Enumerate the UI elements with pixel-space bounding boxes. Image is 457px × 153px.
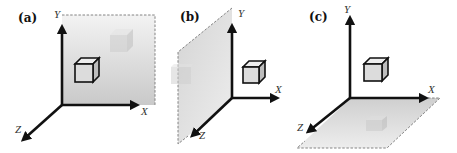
cube-icon <box>364 58 388 81</box>
panel-c: (c) Y X Z <box>297 3 440 148</box>
z-axis-label-a: Z <box>15 123 22 135</box>
x-axis-label-b: X <box>274 83 283 95</box>
z-axis-a <box>24 105 62 139</box>
z-axis-label-b: Z <box>199 129 206 141</box>
x-axis-label-c: X <box>427 83 436 95</box>
z-axis-label-c: Z <box>297 121 304 133</box>
cube-icon <box>75 58 99 82</box>
projected-cube-icon <box>110 29 133 52</box>
xy-plane <box>62 15 155 105</box>
coordinate-projection-figure: (a) Y X Z (b) <box>0 0 457 153</box>
projected-cube-icon <box>366 116 387 131</box>
projected-cube-icon <box>171 64 193 84</box>
y-axis-label-a: Y <box>54 8 62 20</box>
panel-label-b: (b) <box>180 10 200 24</box>
y-axis-label-c: Y <box>344 3 352 15</box>
panel-a: (a) Y X Z <box>15 8 155 139</box>
panel-label-a: (a) <box>18 11 37 25</box>
cube-icon <box>243 61 265 83</box>
y-axis-label-b: Y <box>238 7 246 19</box>
panel-b: (b) Y X Z <box>171 7 283 144</box>
x-axis-label-a: X <box>140 105 149 117</box>
panel-label-c: (c) <box>309 10 328 24</box>
